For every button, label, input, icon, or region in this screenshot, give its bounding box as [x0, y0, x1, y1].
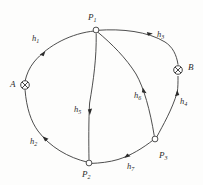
edge-label-h7: h7 — [127, 162, 134, 171]
diagram-canvas — [0, 0, 203, 185]
edge-h4-arrowhead — [175, 90, 179, 96]
node-label-B: B — [188, 63, 194, 72]
node-P2[interactable] — [86, 160, 92, 166]
edge-h3-path — [98, 30, 179, 64]
graph-diagram-figure: P1 P2 P3 A B h1 h2 h3 h4 h5 h6 h7 — [0, 0, 203, 185]
node-label-P3: P3 — [159, 151, 168, 160]
node-label-A: A — [10, 80, 16, 89]
node-label-P1: P1 — [88, 13, 97, 22]
edge-label-h6: h6 — [134, 91, 141, 100]
edge-h2-arrowhead — [43, 136, 49, 141]
edge-h7-path — [92, 140, 153, 163]
edge-label-h3: h3 — [157, 30, 164, 39]
node-B[interactable] — [174, 66, 183, 75]
edge-h4-path — [157, 76, 178, 137]
node-label-P2: P2 — [82, 170, 91, 179]
node-A[interactable] — [21, 81, 30, 90]
edge-h6-path — [98, 32, 155, 135]
edge-label-h4: h4 — [180, 97, 187, 106]
edge-h5-arrowhead — [88, 109, 92, 115]
node-P3[interactable] — [152, 136, 158, 142]
edge-h2-path — [25, 91, 87, 163]
edge-label-h2: h2 — [30, 137, 37, 146]
edge-label-h5: h5 — [74, 105, 81, 114]
edge-label-h1: h1 — [32, 34, 39, 43]
node-P1[interactable] — [93, 27, 99, 33]
edge-h5-path — [89, 34, 96, 160]
edge-h7-arrowhead — [124, 154, 130, 158]
